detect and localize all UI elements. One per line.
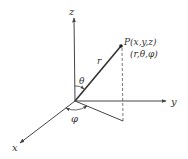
projection-dashed-line — [122, 48, 123, 121]
theta-label: θ — [79, 76, 85, 86]
x-axis-label: x — [12, 142, 18, 153]
z-axis-label: z — [68, 6, 75, 17]
radius-label: r — [97, 56, 102, 66]
y-axis-label: y — [170, 96, 177, 107]
phi-label: φ — [71, 113, 78, 124]
x-axis — [20, 101, 75, 143]
point-cartesian-label: P(x,y,z) — [123, 37, 157, 47]
radius-vector — [75, 46, 121, 101]
z-axis — [74, 18, 75, 101]
xy-projection-line — [75, 101, 123, 121]
point-spherical-label: (r,θ,φ) — [130, 49, 158, 59]
theta-arc — [75, 86, 85, 89]
spherical-coordinates-diagram: z y x P(x,y,z) (r,θ,φ) r θ φ — [0, 0, 188, 159]
point-p — [119, 44, 123, 48]
phi-arc — [66, 106, 87, 110]
